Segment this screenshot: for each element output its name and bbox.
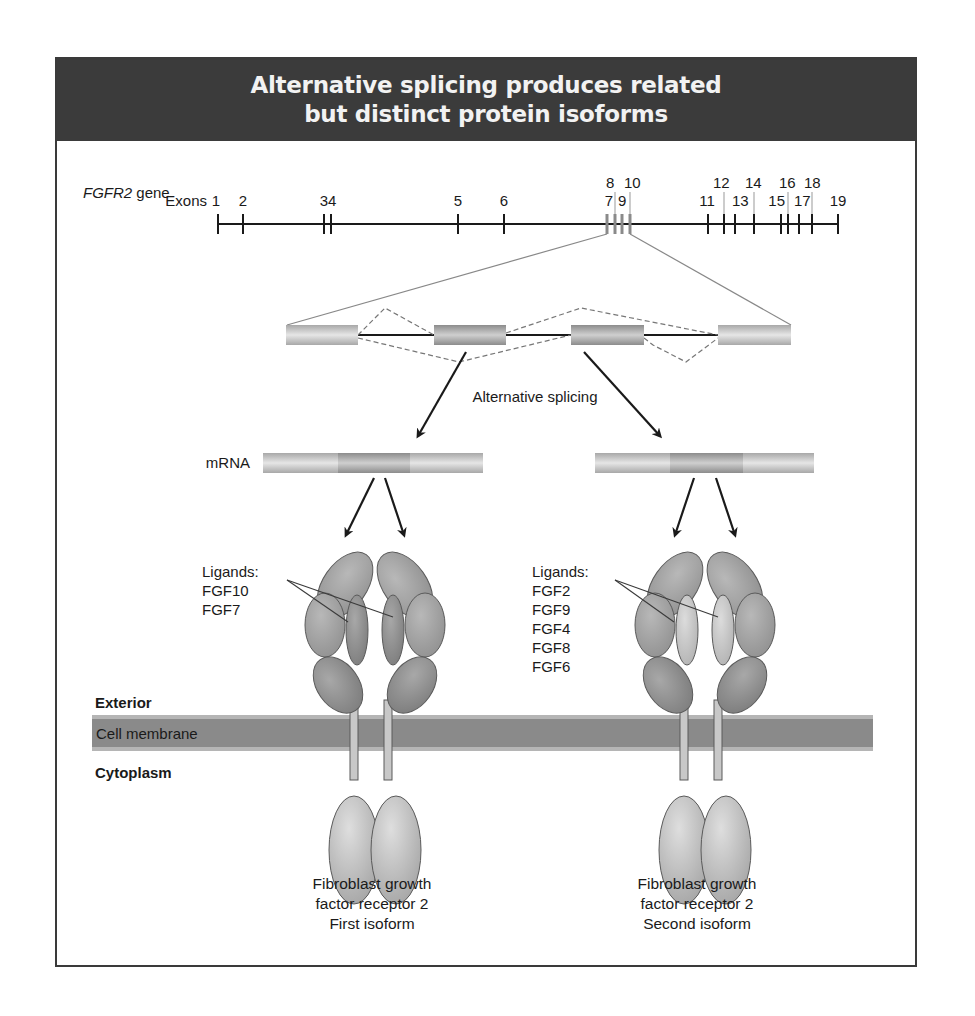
mrna-second <box>595 453 814 473</box>
exons-label: Exons <box>165 192 207 209</box>
immunoglobulin-domain <box>346 595 368 665</box>
transmembrane-stalk <box>384 700 392 780</box>
cytoplasm-label: Cytoplasm <box>95 764 172 781</box>
exon-number: 11 <box>699 192 715 209</box>
exon-block-8 <box>434 325 506 345</box>
immunoglobulin-domain <box>405 593 445 657</box>
ligands-label: Ligands: <box>202 563 259 580</box>
exterior-label: Exterior <box>95 694 152 711</box>
ligand-name: FGF9 <box>532 601 570 618</box>
immunoglobulin-domain <box>635 593 675 657</box>
gene-name: FGFR2 <box>83 184 133 201</box>
translation-arrow <box>346 478 374 535</box>
ligand-name: FGF7 <box>202 601 240 618</box>
exon-17: 17 <box>794 192 811 234</box>
splice-arrow-left <box>418 352 466 436</box>
caption-second-isoform: Fibroblast growthfactor receptor 2Second… <box>638 875 757 932</box>
cell-membrane-core <box>92 719 873 747</box>
immunoglobulin-domain <box>735 593 775 657</box>
exon-4: 4 <box>328 192 336 234</box>
gene-label: FGFR2 gene <box>83 184 170 201</box>
splice-path <box>644 338 718 362</box>
exon-number: 12 <box>713 174 730 191</box>
exon-number: 18 <box>804 174 821 191</box>
ligand-name: FGF4 <box>532 620 570 637</box>
exon-block-10 <box>718 325 791 345</box>
exon-7: 7 <box>605 192 613 234</box>
exon-number: 17 <box>794 192 811 209</box>
exon-3: 3 <box>320 192 328 234</box>
exon-number: 1 <box>212 192 220 209</box>
caption-line: Second isoform <box>643 915 751 932</box>
ligand-name: FGF10 <box>202 582 249 599</box>
splice-path <box>358 308 434 335</box>
exon-number: 15 <box>768 192 785 209</box>
translation-arrow <box>385 478 404 535</box>
zoom-line-left <box>287 234 607 325</box>
transmembrane-stalk <box>714 700 722 780</box>
exon-number: 6 <box>500 192 508 209</box>
cell-membrane-label: Cell membrane <box>96 725 198 742</box>
exon-number: 2 <box>239 192 247 209</box>
exon-number: 4 <box>328 192 336 209</box>
ligand-name: FGF8 <box>532 639 570 656</box>
exon-block-7 <box>286 325 358 345</box>
caption-line: Fibroblast growth <box>313 875 432 892</box>
splicing-diagram: FGFR2 gene Exons 12345678910111213141516… <box>0 0 975 1016</box>
exon-19: 19 <box>830 192 847 234</box>
exon-11: 11 <box>699 192 715 234</box>
caption-line: Fibroblast growth <box>638 875 757 892</box>
exon-5: 5 <box>454 192 462 234</box>
ligand-name: FGF2 <box>532 582 570 599</box>
exon-1: 1 <box>212 192 220 234</box>
exon-number: 16 <box>779 174 796 191</box>
mrna-label: mRNA <box>206 454 250 471</box>
ligands-label: Ligands: <box>532 563 589 580</box>
exon-15: 15 <box>768 192 785 234</box>
translation-arrow <box>716 478 735 535</box>
exon-number: 14 <box>745 174 762 191</box>
caption-line: First isoform <box>329 915 414 932</box>
translation-arrow <box>675 478 694 535</box>
immunoglobulin-domain <box>305 593 345 657</box>
alternative-splicing-label: Alternative splicing <box>472 388 597 405</box>
exon-number: 5 <box>454 192 462 209</box>
immunoglobulin-domain <box>712 595 734 665</box>
ligand-name: FGF6 <box>532 658 570 675</box>
exon-6: 6 <box>500 192 508 234</box>
exon-number: 10 <box>624 174 641 191</box>
immunoglobulin-domain <box>382 595 404 665</box>
exon-2: 2 <box>239 192 247 234</box>
exon-9: 9 <box>618 192 626 234</box>
exon-block-9 <box>571 325 644 345</box>
zoom-line-right <box>630 234 791 325</box>
exon-number: 13 <box>732 192 749 209</box>
caption-first-isoform: Fibroblast growthfactor receptor 2First … <box>313 875 432 932</box>
exon-number: 19 <box>830 192 847 209</box>
exon-13: 13 <box>732 192 749 234</box>
exon-number: 8 <box>606 174 614 191</box>
exon-number: 9 <box>618 192 626 209</box>
caption-line: factor receptor 2 <box>316 895 429 912</box>
caption-line: factor receptor 2 <box>641 895 754 912</box>
exon-number: 7 <box>605 192 613 209</box>
mrna-first <box>263 453 483 473</box>
gene-suffix: gene <box>132 184 170 201</box>
exon-number: 3 <box>320 192 328 209</box>
